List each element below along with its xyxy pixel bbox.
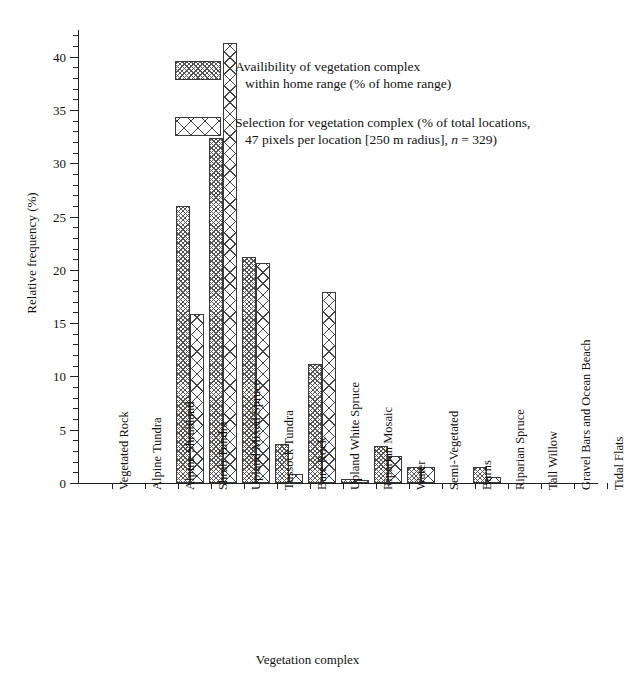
x-tick-label: Tall Willow <box>546 431 561 490</box>
x-tick-label: Alpine Tundra <box>150 417 165 490</box>
legend-selection-line1: Selection for vegetation complex (% of t… <box>235 115 530 130</box>
y-tick-major <box>70 110 78 111</box>
x-tick <box>178 483 179 489</box>
y-tick-label: 25 <box>53 210 66 223</box>
legend-selection-line2: 47 pixels per location [250 m radius], n… <box>235 131 595 148</box>
x-tick <box>541 483 542 489</box>
y-tick-label: 0 <box>60 477 67 490</box>
y-tick-label: 15 <box>53 317 66 330</box>
x-tick-label: Shrub Tundra <box>216 422 231 490</box>
legend-swatch-selection-icon <box>175 117 221 136</box>
y-tick-major <box>70 217 78 218</box>
x-tick-label: Semi-Vegetated <box>447 411 462 490</box>
legend-item-selection: Selection for vegetation complex (% of t… <box>175 114 595 148</box>
legend-selection-n-symbol: n <box>451 132 458 147</box>
legend-item-availability: Availibility of vegetation complex withi… <box>175 58 595 92</box>
y-tick-label: 35 <box>53 103 66 116</box>
x-tick <box>145 483 146 489</box>
x-tick <box>277 483 278 489</box>
x-tick-label: Upland White Spruce <box>348 382 363 490</box>
x-tick-label: Vegetated Rock <box>117 411 132 490</box>
legend-selection-line2-pre: 47 pixels per location [250 m radius], <box>245 132 451 147</box>
x-tick-label: Riparian Mosaic <box>381 407 396 490</box>
x-tick <box>409 483 410 489</box>
x-tick <box>574 483 575 489</box>
x-tick <box>475 483 476 489</box>
x-tick-label: Burns <box>480 460 495 490</box>
x-tick-label: Bare Rock <box>315 437 330 490</box>
y-tick-label: 40 <box>53 50 66 63</box>
y-tick-major <box>70 270 78 271</box>
legend-selection-line2-post: = 329) <box>458 132 497 147</box>
x-tick <box>376 483 377 489</box>
legend: Availibility of vegetation complex withi… <box>175 58 595 170</box>
x-tick <box>607 483 608 489</box>
legend-label-selection: Selection for vegetation complex (% of t… <box>235 114 595 148</box>
x-tick-label: Gravel Bars and Ocean Beach <box>579 339 594 490</box>
x-tick <box>211 483 212 489</box>
x-tick <box>244 483 245 489</box>
x-tick <box>310 483 311 489</box>
x-tick-label: Upland Mixed Spruce <box>249 380 264 490</box>
y-tick-major <box>70 57 78 58</box>
y-tick-label: 20 <box>53 263 66 276</box>
y-tick-major <box>70 376 78 377</box>
y-tick-major <box>70 483 78 484</box>
x-tick <box>508 483 509 489</box>
y-tick-label: 10 <box>53 370 66 383</box>
x-tick <box>112 483 113 489</box>
x-axis-title: Vegetation complex <box>0 652 615 668</box>
legend-swatch-availability-icon <box>175 61 221 80</box>
y-tick-label: 30 <box>53 157 66 170</box>
x-tick-label: Tidal Flats <box>612 437 627 490</box>
y-tick-label: 5 <box>60 423 67 436</box>
y-tick-major <box>70 163 78 164</box>
y-tick-major <box>70 323 78 324</box>
x-tick-label: Tussock Tundra <box>282 410 297 490</box>
x-tick-label: Riparian Spruce <box>513 409 528 490</box>
y-axis-title: Relative frequency (%) <box>24 143 40 363</box>
x-tick <box>442 483 443 489</box>
legend-availability-line1: Availibility of vegetation complex <box>235 59 420 74</box>
x-tick <box>343 483 344 489</box>
x-tick-label: Alpine Shrubland <box>183 401 198 490</box>
legend-availability-line2: within home range (% of home range) <box>235 75 595 92</box>
y-tick-major <box>70 430 78 431</box>
legend-label-availability: Availibility of vegetation complex withi… <box>235 58 595 92</box>
x-tick-label: Water <box>414 460 429 490</box>
